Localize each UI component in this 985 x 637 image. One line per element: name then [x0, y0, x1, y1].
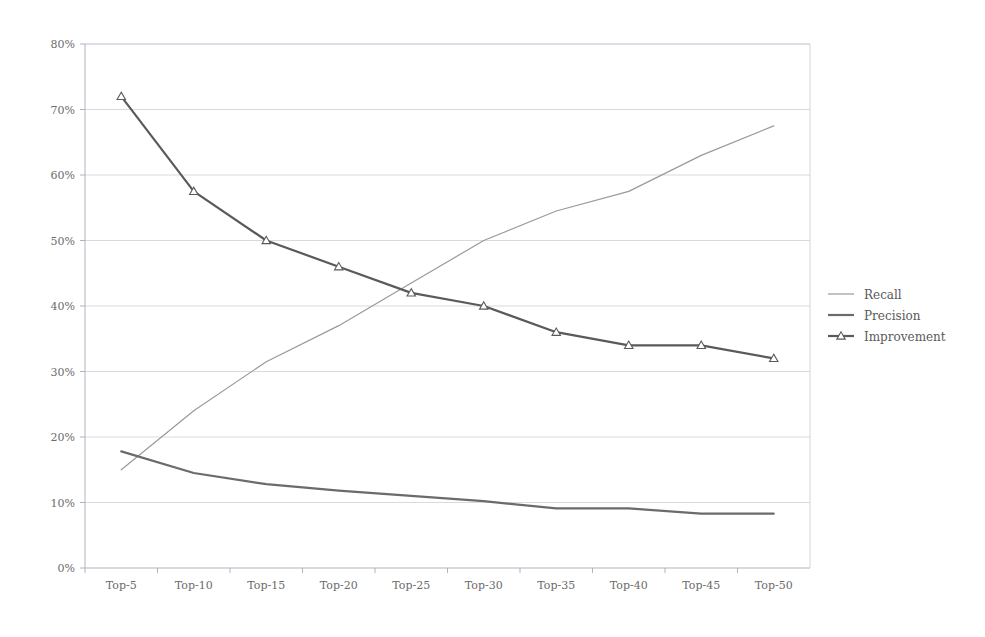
x-axis-tick-label: Top-15 — [247, 579, 285, 592]
y-axis-tick-label: 60% — [51, 169, 75, 182]
series-line-improvement — [121, 96, 774, 358]
y-axis-tick-label: 20% — [51, 431, 75, 444]
legend-label-improvement: Improvement — [864, 330, 946, 344]
x-axis-tick-label: Top-30 — [465, 579, 503, 592]
x-axis-tick-label: Top-45 — [682, 579, 720, 592]
y-axis-tick-label: 0% — [58, 562, 75, 575]
x-axis-tick-label: Top-25 — [392, 579, 430, 592]
data-point-marker — [117, 92, 125, 99]
legend: RecallPrecisionImprovement — [828, 288, 946, 344]
y-axis-tick-label: 10% — [51, 497, 75, 510]
series-line-precision — [121, 451, 774, 513]
legend-label-recall: Recall — [864, 288, 902, 302]
x-axis-tick-label: Top-35 — [537, 579, 575, 592]
gridlines-group — [85, 44, 810, 503]
x-axis-group — [85, 44, 810, 573]
x-axis-tick-label: Top-5 — [106, 579, 137, 592]
x-axis-tick-label: Top-20 — [320, 579, 358, 592]
series-group — [117, 92, 778, 513]
x-axis-tick-label: Top-10 — [175, 579, 213, 592]
x-axis-tick-labels: Top-5Top-10Top-15Top-20Top-25Top-30Top-3… — [106, 579, 793, 592]
chart-container: 0%10%20%30%40%50%60%70%80% Top-5Top-10To… — [0, 0, 985, 637]
y-axis-tick-label: 70% — [51, 104, 75, 117]
y-axis-tick-label: 30% — [51, 366, 75, 379]
line-chart: 0%10%20%30%40%50%60%70%80% Top-5Top-10To… — [0, 0, 985, 637]
x-axis-tick-label: Top-40 — [610, 579, 648, 592]
legend-label-precision: Precision — [864, 309, 921, 323]
y-axis-tick-label: 80% — [51, 38, 75, 51]
y-axis-tick-label: 50% — [51, 235, 75, 248]
y-axis-group — [80, 44, 85, 568]
x-axis-tick-label: Top-50 — [755, 579, 793, 592]
y-axis-tick-label: 40% — [51, 300, 75, 313]
y-axis-tick-labels: 0%10%20%30%40%50%60%70%80% — [51, 38, 75, 575]
series-line-recall — [121, 126, 774, 470]
